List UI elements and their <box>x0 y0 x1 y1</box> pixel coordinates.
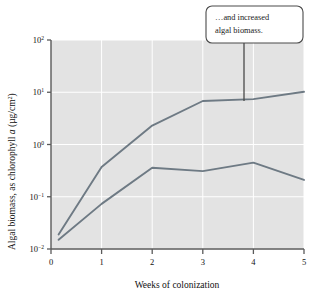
x-tick-label: 1 <box>99 257 103 267</box>
y-tick-label: 10−2 <box>30 244 45 254</box>
x-tick-label: 4 <box>251 257 256 267</box>
x-tick-label: 2 <box>150 257 154 267</box>
y-tick-labels: 10210110010−110−2 <box>30 35 45 254</box>
y-tick-label: 10−1 <box>30 192 45 202</box>
callout-box <box>206 6 303 43</box>
y-tick-label: 101 <box>33 87 45 97</box>
x-tick-labels: 012345 <box>49 257 306 267</box>
y-tick-label: 102 <box>33 35 45 45</box>
x-tick-label: 0 <box>49 257 53 267</box>
y-axis-title: Algal biomass, as chlorophyll a (µg/cm2) <box>7 93 18 250</box>
callout-line-2: algal biomass. <box>215 26 263 35</box>
y-tick-label: 100 <box>33 140 45 150</box>
callout-line-1: …and increased <box>215 13 270 22</box>
x-tick-label: 3 <box>201 257 205 267</box>
chart-figure: 10210110010−110−2 012345 Algal biomass, … <box>0 0 313 296</box>
algal-biomass-line-chart: 10210110010−110−2 012345 Algal biomass, … <box>0 0 313 296</box>
x-axis-title: Weeks of colonization <box>135 280 220 290</box>
x-tick-label: 5 <box>302 257 306 267</box>
